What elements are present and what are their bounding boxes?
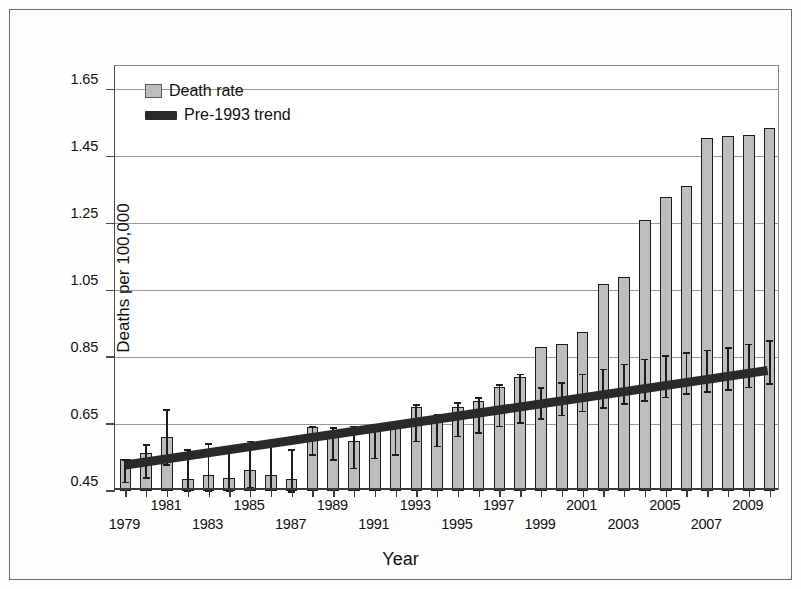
x-tick-label: 1991 <box>358 516 389 532</box>
y-tick-label: 1.25 <box>71 205 98 221</box>
x-tick-mark <box>209 490 210 497</box>
error-bar-cap-upper <box>434 414 441 416</box>
error-bar-cap-upper <box>496 384 503 386</box>
error-bar-cap-lower <box>745 387 752 389</box>
error-bar <box>623 364 625 403</box>
x-tick-mark <box>645 490 646 497</box>
y-tick-mark <box>106 423 115 424</box>
error-bar-cap-upper <box>683 352 690 354</box>
bar <box>556 344 568 491</box>
error-bar-cap-upper <box>163 409 170 411</box>
bar <box>681 186 693 491</box>
error-bar-cap-lower <box>662 397 669 399</box>
y-tick-mark <box>106 356 115 357</box>
error-bar-cap-upper <box>766 340 773 342</box>
error-bar <box>602 369 604 407</box>
error-bar-cap-lower <box>122 482 129 484</box>
error-bar <box>249 441 251 487</box>
error-bar <box>124 459 126 481</box>
error-bar-cap-upper <box>330 427 337 429</box>
error-bar-cap-upper <box>641 359 648 361</box>
error-bar-cap-lower <box>371 458 378 460</box>
x-tick-mark <box>125 490 126 497</box>
bar <box>660 197 672 491</box>
error-bar-cap-upper <box>413 404 420 406</box>
x-tick-mark <box>770 490 771 497</box>
x-tick-mark <box>707 490 708 497</box>
error-bar-cap-lower <box>683 393 690 395</box>
gridline <box>115 223 778 224</box>
error-bar-cap-lower <box>392 454 399 456</box>
y-tick-label: 1.05 <box>71 272 98 288</box>
x-tick-mark <box>416 490 417 497</box>
error-bar-cap-upper <box>475 397 482 399</box>
x-tick-mark <box>499 490 500 497</box>
error-bar <box>706 350 708 391</box>
gridline <box>115 156 778 157</box>
bar <box>764 128 776 491</box>
error-bar-cap-upper <box>267 444 274 446</box>
y-tick-label: 0.45 <box>71 473 98 489</box>
legend-item-pre-1993-trend: Pre-1993 trend <box>145 104 291 126</box>
error-bar <box>353 426 355 468</box>
bar <box>701 138 713 491</box>
x-tick-label: 1989 <box>317 497 348 513</box>
gridline <box>115 357 778 358</box>
error-bar <box>145 444 147 477</box>
error-bar <box>291 449 293 491</box>
x-tick-label: 1981 <box>150 497 181 513</box>
x-tick-mark <box>686 490 687 497</box>
legend-label-death-rate: Death rate <box>169 82 244 100</box>
legend-item-death-rate: Death rate <box>145 80 291 102</box>
error-bar <box>644 359 646 400</box>
trend-swatch-icon <box>145 111 177 120</box>
error-bar-cap-lower <box>330 459 337 461</box>
x-tick-mark <box>541 490 542 497</box>
y-tick-label: 1.45 <box>71 138 98 154</box>
error-bar-cap-lower <box>579 411 586 413</box>
error-bar <box>436 414 438 446</box>
bar-swatch-icon <box>145 84 162 98</box>
error-bar-cap-lower <box>163 464 170 466</box>
error-bar-cap-lower <box>621 403 628 405</box>
x-tick-mark <box>333 490 334 497</box>
error-bar-cap-lower <box>641 400 648 402</box>
error-bar-cap-lower <box>434 446 441 448</box>
chart-legend: Death rate Pre-1993 trend <box>145 80 291 128</box>
x-tick-mark <box>437 490 438 497</box>
y-tick-label: 0.85 <box>71 339 98 355</box>
x-tick-label: 1995 <box>441 516 472 532</box>
error-bar-cap-upper <box>538 387 545 389</box>
error-bar <box>457 402 459 435</box>
x-tick-label: 2009 <box>732 497 763 513</box>
x-tick-mark <box>312 490 313 497</box>
error-bar <box>478 397 480 432</box>
y-tick-mark <box>106 490 115 491</box>
x-tick-mark <box>396 490 397 497</box>
error-bar-cap-upper <box>704 350 711 352</box>
x-tick-mark <box>728 490 729 497</box>
x-tick-mark <box>250 490 251 497</box>
error-bar <box>748 344 750 387</box>
bar <box>743 135 755 491</box>
x-tick-label: 1997 <box>483 497 514 513</box>
x-tick-mark <box>666 490 667 497</box>
y-tick-mark <box>106 89 115 90</box>
gridline <box>115 424 778 425</box>
x-tick-label: 2003 <box>608 516 639 532</box>
x-tick-mark <box>188 490 189 497</box>
error-bar <box>582 374 584 411</box>
y-axis-title: Deaths per 100,000 <box>114 203 134 352</box>
x-tick-label: 1983 <box>192 516 223 532</box>
x-tick-label: 1987 <box>275 516 306 532</box>
figure-border: Death rate Pre-1993 trend Deaths per 100… <box>9 9 792 580</box>
error-bar-cap-upper <box>309 426 316 428</box>
error-bar-cap-upper <box>600 369 607 371</box>
legend-label-pre-1993-trend: Pre-1993 trend <box>184 106 291 124</box>
x-tick-label: 1985 <box>234 497 265 513</box>
error-bar-cap-lower <box>413 441 420 443</box>
error-bar-cap-lower <box>558 415 565 417</box>
error-bar-cap-upper <box>143 444 150 446</box>
error-bar-cap-lower <box>475 432 482 434</box>
error-bar-cap-lower <box>725 389 732 391</box>
